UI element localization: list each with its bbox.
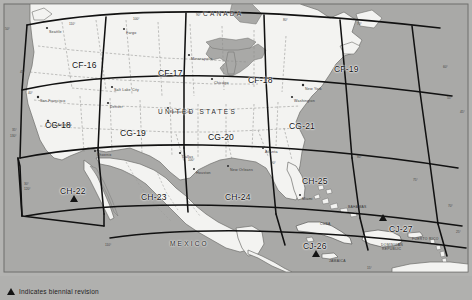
lake-michigan — [226, 52, 236, 74]
coordinate-label-0: 50° — [5, 27, 10, 31]
coordinate-label-14: 15° — [367, 266, 372, 270]
place-label-miami: Miami — [302, 197, 313, 201]
coordinate-label-13: 25° — [456, 230, 461, 234]
grid-cell-label-ch-24[interactable]: CH-24 — [225, 192, 251, 202]
coordinate-label-12: 70° — [448, 204, 453, 208]
grid-cell-label-cf-18[interactable]: CF-18 — [248, 75, 273, 85]
island-label-republic: REPUBLIC — [382, 247, 401, 251]
place-label-fargo: Fargo — [126, 31, 136, 35]
place-label-minneapolis: Minneapolis — [191, 57, 212, 61]
triangle-icon — [7, 288, 15, 295]
grid-cell-label-ch-23[interactable]: CH-23 — [141, 192, 167, 202]
coordinate-label-17: 80° — [283, 18, 288, 22]
legend-row: Indicates biennial revision — [7, 288, 99, 295]
grid-cell-label-cf-17[interactable]: CF-17 — [158, 68, 183, 78]
coordinate-label-6: 120° — [24, 187, 31, 191]
place-label-salt-lake-city: Salt Lake City — [114, 88, 139, 92]
coordinate-label-18: 90° — [196, 13, 201, 17]
grid-cell-label-cg-19[interactable]: CG-19 — [120, 128, 146, 138]
place-label-chicago: Chicago — [214, 81, 229, 85]
map-graphic — [0, 0, 472, 300]
place-label-houston: Houston — [196, 171, 211, 175]
coordinate-label-10: 80° — [357, 155, 362, 159]
place-label-new-orleans: New Orleans — [230, 168, 253, 172]
island-label-bahamas: BAHAMAS — [348, 205, 367, 209]
island-label-jamaica: JAMAICA — [329, 259, 346, 263]
coordinate-label-15: 60° — [443, 65, 448, 69]
coordinate-label-16: 70° — [357, 22, 362, 26]
coordinate-label-1: 45° — [20, 70, 25, 74]
map-figure: CANADAUNITED STATESMEXICO CF-16CF-17CF-1… — [0, 0, 472, 300]
place-label-san-francisco: San Francisco — [40, 99, 66, 103]
place-label-washington: Washington — [294, 99, 315, 103]
island-label-puerto-rico: PUERTO RICO — [412, 237, 439, 241]
country-label-mexico: MEXICO — [170, 240, 209, 247]
grid-cell-label-cg-21[interactable]: CG-21 — [289, 121, 315, 131]
legend-text: Indicates biennial revision — [19, 288, 99, 295]
coordinate-label-9: 90° — [271, 161, 276, 165]
coordinate-label-22: 55° — [447, 96, 452, 100]
grid-cell-label-cf-16[interactable]: CF-16 — [72, 60, 97, 70]
place-label-phoenix: Phoenix — [97, 153, 111, 157]
coordinate-label-2: 40° — [28, 91, 33, 95]
coordinate-label-21: 45° — [460, 110, 465, 114]
coordinate-label-19: 100° — [133, 17, 140, 21]
coordinate-label-8: 100° — [188, 158, 195, 162]
grid-cell-label-cf-19[interactable]: CF-19 — [334, 64, 359, 74]
grid-cell-label-cj-27[interactable]: CJ-27 — [389, 224, 413, 234]
legend-bar: Indicates biennial revision — [0, 276, 472, 300]
place-label-seattle: Seattle — [49, 30, 62, 34]
island-label-cuba: CUBA — [320, 222, 331, 226]
coordinate-label-7: 110° — [105, 243, 111, 247]
place-label-kansas-city: Kansas City — [170, 110, 191, 114]
lake-superior — [206, 38, 256, 50]
coordinate-label-5: 30° — [24, 182, 29, 186]
grid-cell-label-ch-25[interactable]: CH-25 — [302, 176, 328, 186]
triangle-icon-cj-27 — [379, 214, 387, 221]
triangle-icon-ch-22 — [70, 195, 78, 202]
coordinate-label-20: 110° — [69, 22, 75, 26]
place-label-los-angeles: Los Angeles — [50, 123, 72, 127]
place-label-atlanta: Atlanta — [265, 150, 278, 154]
coordinate-label-3: 35° — [12, 128, 17, 132]
coordinate-label-4: 130° — [10, 134, 17, 138]
coordinate-label-11: 75° — [413, 178, 418, 182]
place-label-new-york: New York — [305, 87, 322, 91]
triangle-icon-cj-26 — [312, 250, 320, 257]
country-label-canada: CANADA — [203, 10, 243, 17]
place-label-denver: Denver — [110, 105, 123, 109]
grid-cell-label-cg-20[interactable]: CG-20 — [208, 132, 234, 142]
